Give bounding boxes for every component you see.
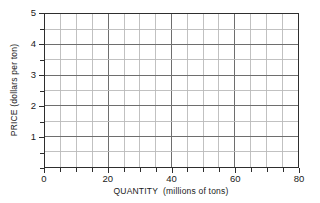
- y-tick-label: 1: [31, 132, 36, 142]
- y-tick: [39, 137, 44, 138]
- x-tick: [187, 168, 188, 172]
- y-tick-label: 4: [31, 39, 36, 49]
- x-tick: [219, 168, 220, 172]
- x-tick: [251, 168, 252, 172]
- x-axis-title: QUANTITY (millions of tons): [113, 186, 228, 196]
- y-tick: [39, 44, 44, 45]
- y-tick-label: 2: [31, 101, 36, 111]
- y-tick: [39, 106, 44, 107]
- gridlines: [45, 14, 298, 167]
- y-tick: [40, 60, 44, 61]
- y-tick-label: 3: [31, 70, 36, 80]
- x-tick: [283, 168, 284, 172]
- x-tick-label: 60: [230, 174, 241, 184]
- x-tick: [140, 168, 141, 172]
- y-tick: [40, 122, 44, 123]
- y-tick: [40, 168, 44, 169]
- x-tick: [60, 168, 61, 172]
- x-tick: [124, 168, 125, 172]
- x-tick-label: 20: [102, 174, 113, 184]
- y-axis-title: PRICE (dollars per ton): [9, 44, 19, 136]
- y-tick: [40, 153, 44, 154]
- x-tick: [76, 168, 77, 172]
- y-tick: [39, 75, 44, 76]
- x-tick-label: 80: [294, 174, 305, 184]
- x-tick: [267, 168, 268, 172]
- y-tick-label: 5: [31, 8, 36, 18]
- x-tick: [203, 168, 204, 172]
- y-tick: [39, 13, 44, 14]
- x-tick: [92, 168, 93, 172]
- x-tick-label: 40: [166, 174, 177, 184]
- x-tick-label: 0: [41, 174, 46, 184]
- price-quantity-grid-chart: 020406080 12345 QUANTITY (millions of to…: [0, 0, 320, 203]
- x-tick: [156, 168, 157, 172]
- y-tick: [40, 29, 44, 30]
- plot-area: [44, 13, 299, 168]
- y-tick: [40, 91, 44, 92]
